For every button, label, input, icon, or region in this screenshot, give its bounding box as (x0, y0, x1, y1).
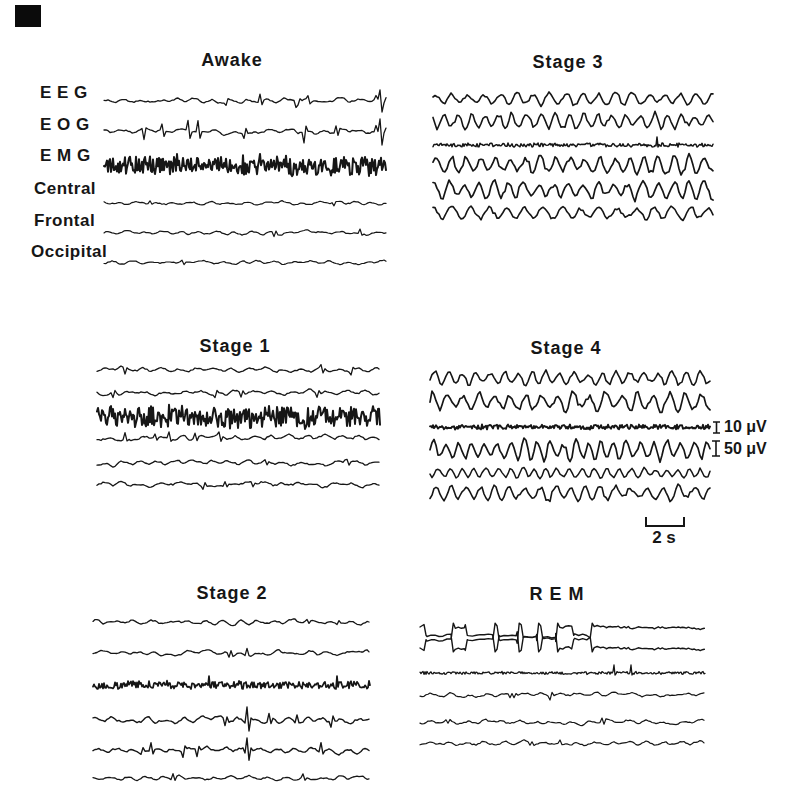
calibration-label-10uv: 10 μV (724, 418, 767, 436)
panel-title-stage4: Stage 4 (530, 338, 601, 359)
waveform-trace (430, 370, 710, 386)
waveform-trace (433, 206, 713, 221)
waveform-trace (420, 665, 705, 675)
waveform-trace (97, 405, 380, 429)
channel-label-frontal: Frontal (34, 211, 95, 231)
waveform-trace (430, 484, 710, 502)
waveform-trace (93, 707, 369, 731)
waveform-trace (430, 391, 710, 412)
waveform-trace (104, 229, 386, 237)
waveform-trace (433, 154, 713, 176)
waveform-trace (433, 137, 713, 147)
waveform-panel-awake (104, 85, 386, 285)
channel-label-central: Central (34, 179, 96, 199)
waveform-panel-stage1 (97, 360, 380, 500)
waveform-trace (93, 774, 369, 781)
channel-label-eog: E O G (40, 115, 90, 135)
calibration-label-50uv: 50 μV (724, 440, 767, 458)
waveform-trace (433, 180, 713, 202)
waveform-panel-stage4 (430, 368, 710, 508)
waveform-trace (104, 154, 386, 176)
waveform-trace (430, 438, 710, 462)
waveform-trace (93, 676, 370, 689)
waveform-trace (104, 260, 386, 265)
waveform-panel-rem (420, 615, 705, 757)
waveform-trace (420, 632, 704, 652)
waveform-panel-stage2 (93, 612, 370, 788)
waveform-trace (93, 619, 369, 626)
waveform-trace (420, 740, 704, 746)
panel-title-stage2: Stage 2 (196, 583, 267, 604)
waveform-trace (420, 692, 704, 700)
channel-label-eeg: E E G (40, 83, 88, 103)
waveform-trace (104, 119, 386, 145)
waveform-trace (97, 481, 379, 489)
waveform-trace (97, 432, 379, 441)
waveform-trace (433, 111, 713, 130)
panel-title-stage3: Stage 3 (532, 52, 603, 73)
waveform-trace (430, 467, 710, 478)
waveform-trace (104, 201, 386, 206)
calibration-bar-50uv-icon (711, 440, 721, 457)
waveform-trace (420, 623, 704, 643)
time-scale-bracket (645, 517, 685, 527)
waveform-trace (104, 90, 386, 112)
scan-artifact-mark (15, 5, 41, 27)
panel-title-rem: R E M (529, 584, 584, 605)
waveform-trace (93, 738, 369, 760)
panel-title-awake: Awake (201, 50, 263, 71)
channel-label-emg: E M G (40, 146, 91, 166)
channel-label-occipital: Occipital (31, 242, 107, 262)
waveform-panel-stage3 (433, 89, 713, 229)
waveform-trace (433, 92, 713, 107)
waveform-trace (420, 718, 704, 726)
waveform-trace (97, 459, 379, 467)
figure-canvas: Awake Stage 3 Stage 1 Stage 4 Stage 2 R … (0, 0, 809, 793)
time-scale-label: 2 s (652, 528, 676, 548)
waveform-trace (430, 424, 710, 429)
waveform-trace (97, 365, 379, 375)
waveform-trace (93, 648, 369, 657)
panel-title-stage1: Stage 1 (199, 336, 270, 357)
calibration-bar-10uv-icon (712, 421, 721, 434)
waveform-trace (97, 389, 379, 398)
